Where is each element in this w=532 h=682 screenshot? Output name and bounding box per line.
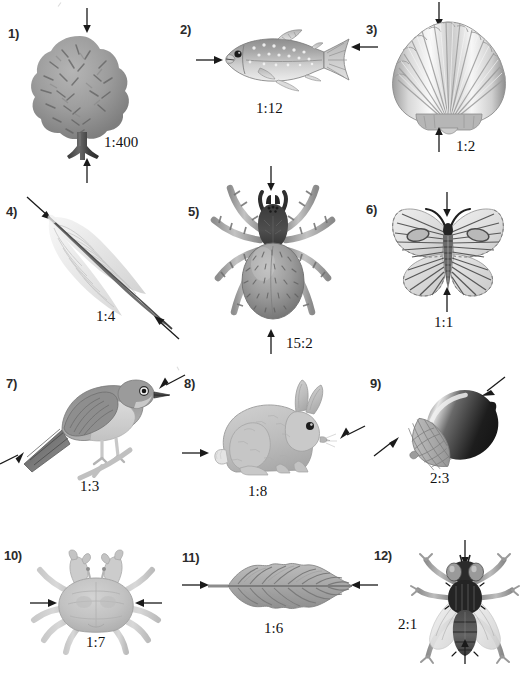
item-number: 11) [182, 550, 199, 565]
scale-ratio-label: 1:7 [86, 634, 105, 651]
item-number: 2) [180, 22, 191, 37]
measure-arrow-left [182, 446, 210, 460]
item-number: 1) [8, 26, 19, 41]
measure-arrow-right [334, 424, 366, 444]
item-acorn: 9) [366, 366, 532, 502]
measure-arrow-bottom [432, 126, 446, 152]
leaf-illustration [208, 558, 354, 614]
scale-ratio-label: 1:6 [264, 620, 283, 637]
measure-arrow-left [30, 596, 58, 610]
item-butterfly: 6) [362, 190, 532, 340]
measure-arrow-upper-right [152, 372, 186, 396]
measure-arrow-bottom [80, 157, 94, 183]
item-number: 4) [6, 204, 17, 219]
measure-arrow-lower-left [374, 432, 404, 458]
item-number: 9) [370, 376, 381, 391]
fish-illustration [220, 28, 352, 94]
scale-ratio-label: 1:1 [434, 314, 453, 331]
scale-ratio-label: 15:2 [286, 335, 313, 352]
item-rabbit: 8) [186, 368, 366, 504]
scale-ratio-label: 2:3 [430, 470, 449, 487]
measure-arrow-right [350, 578, 378, 592]
measure-arrow-bottom [440, 286, 454, 312]
item-number: 12) [374, 548, 392, 563]
item-spider: 5) [186, 180, 362, 366]
scale-ratio-label: 2:1 [398, 616, 417, 633]
scale-ratio-label: 1:8 [248, 483, 267, 500]
measure-arrow-right [134, 596, 162, 610]
spider-illustration [208, 186, 338, 336]
measure-arrow-lower-left [0, 450, 30, 474]
item-fish: 2) [172, 0, 362, 130]
shell-illustration [390, 18, 508, 138]
measure-arrow-bottom [264, 328, 278, 354]
item-scallop-shell: 3) [362, 0, 532, 170]
item-fly: 12) [376, 534, 532, 682]
item-number: 6) [366, 202, 377, 217]
scale-ratio-label: 1:3 [80, 478, 99, 495]
item-crab: 10) [0, 530, 186, 682]
scale-ratio-label: 1:12 [256, 100, 283, 117]
item-number: 7) [6, 376, 17, 391]
item-number: 10) [4, 548, 22, 563]
measure-arrow-upper-right [476, 376, 506, 402]
measure-arrow-lower-right [150, 312, 180, 340]
item-number: 5) [188, 204, 199, 219]
scale-ratio-label: 1:400 [104, 134, 138, 151]
item-leaf: 11) [186, 540, 376, 650]
measure-arrow-top [80, 8, 94, 34]
rabbit-illustration [210, 378, 338, 490]
item-feather: 4) [0, 186, 186, 346]
item-number: 8) [184, 376, 195, 391]
measure-arrow-bottom [458, 638, 472, 664]
item-tree: 1) [0, 0, 172, 182]
scan-artifact-speck [177, 367, 180, 371]
item-bird: 7) [0, 362, 186, 512]
item-number: 3) [366, 22, 377, 37]
measure-arrow-left [182, 578, 210, 592]
scale-ratio-label: 1:2 [456, 138, 475, 155]
scale-ratio-label: 1:4 [96, 308, 115, 325]
worksheet-sheet: 1) [0, 0, 532, 682]
